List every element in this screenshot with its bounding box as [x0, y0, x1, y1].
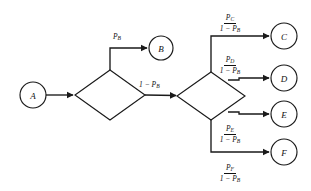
edge-label-e-denominator: 1 − PB: [206, 135, 254, 144]
flowchart-svg: A B C D E F: [0, 0, 311, 191]
flowchart-canvas: A B C D E F PB 1 − PB PC 1 − PB PD 1 − P…: [0, 0, 311, 191]
edge-label-d: PD 1 − PB: [206, 49, 254, 76]
edge-label-d-denominator: 1 − PB: [206, 66, 254, 75]
edge-label-b: PB: [113, 32, 121, 41]
edge-label-d-numerator: PD: [224, 56, 237, 66]
node-c-label: C: [281, 32, 288, 42]
edge-decision1-to-b: [110, 48, 147, 70]
edge-label-c-denominator: 1 − PB: [206, 24, 254, 33]
edge-label-c-numerator: PC: [224, 14, 236, 24]
node-d-label: D: [280, 74, 288, 84]
edge-label-c: PC 1 − PB: [206, 7, 254, 34]
edge-label-not-b-sub: B: [156, 83, 159, 89]
edge-decision2-to-e: [228, 112, 269, 114]
edge-label-f: PF 1 − PB: [206, 157, 254, 184]
edge-label-e: PE 1 − PB: [206, 118, 254, 145]
edge-label-e-numerator: PE: [224, 125, 236, 135]
node-a-label: A: [29, 91, 36, 101]
edge-label-not-b: 1 − PB: [139, 80, 160, 89]
node-f-label: F: [280, 148, 287, 158]
decision-node-2: [177, 72, 245, 120]
edge-label-f-numerator: PF: [224, 164, 236, 174]
edge-label-not-b-text: 1 − P: [139, 80, 156, 89]
edge-decision1-to-decision2: [145, 95, 176, 96]
edge-label-f-denominator: 1 − PB: [206, 174, 254, 183]
node-e-label: E: [280, 110, 287, 120]
decision-node-1: [75, 70, 145, 120]
edge-label-b-sub: B: [118, 35, 121, 41]
node-b-label: B: [158, 44, 164, 54]
edge-decision2-to-d: [228, 78, 269, 80]
